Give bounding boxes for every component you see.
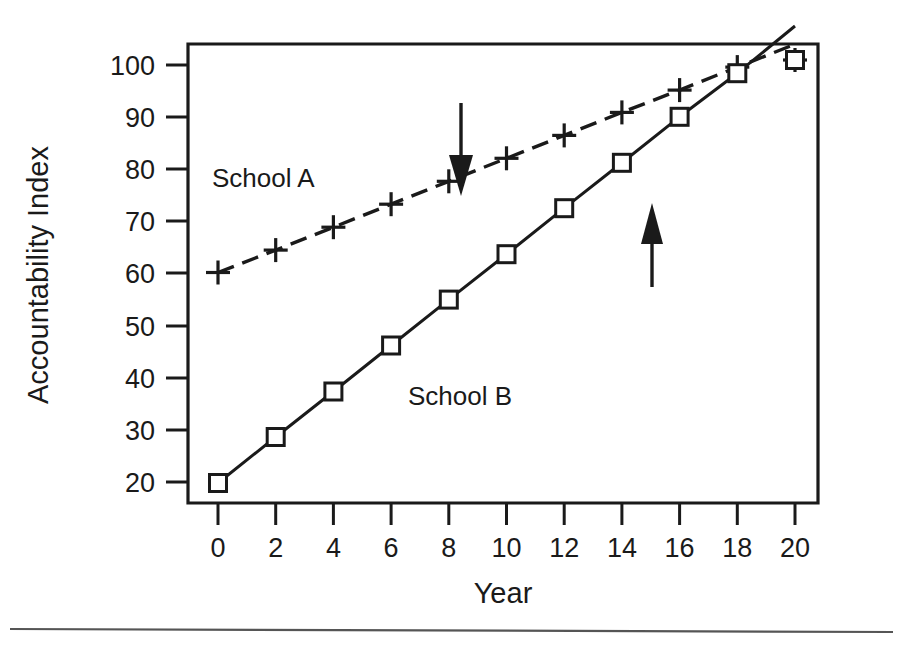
x-tick-label: 20 [780,533,810,563]
y-tick-label: 50 [125,312,155,342]
accountability-index-line-chart: 100 90 80 70 60 50 40 30 20 0 2 [0,0,904,646]
x-tick-label: 0 [210,533,225,563]
series-label-school-b: School B [408,381,512,411]
series-school-b [210,26,804,492]
school-b-markers [210,52,804,492]
y-axis-title: Accountability Index [22,146,54,404]
y-tick-label: 40 [125,364,155,394]
x-tick-label: 4 [326,533,341,563]
y-tick-label: 70 [125,207,155,237]
footer-divider [10,629,893,632]
y-axis-ticks [166,65,188,482]
y-axis-tick-labels: 100 90 80 70 60 50 40 30 20 [110,51,155,498]
y-tick-label: 20 [125,468,155,498]
series-label-school-a: School A [212,163,315,193]
y-tick-label: 80 [125,155,155,185]
x-tick-label: 2 [268,533,283,563]
chart-page: 100 90 80 70 60 50 40 30 20 0 2 [0,0,904,646]
x-tick-label: 10 [491,533,521,563]
x-tick-label: 16 [665,533,695,563]
y-tick-label: 90 [125,103,155,133]
x-tick-label: 18 [722,533,752,563]
x-tick-label: 14 [607,533,637,563]
y-tick-label: 30 [125,416,155,446]
x-axis-ticks [218,503,795,525]
y-tick-label: 100 [110,51,155,81]
x-tick-label: 6 [384,533,399,563]
x-tick-label: 8 [441,533,456,563]
arrow-up-icon [641,203,663,287]
x-tick-label: 12 [549,533,579,563]
x-axis-title: Year [474,577,533,609]
x-axis-tick-labels: 0 2 4 6 8 10 12 14 16 18 20 [210,533,810,563]
y-tick-label: 60 [125,259,155,289]
